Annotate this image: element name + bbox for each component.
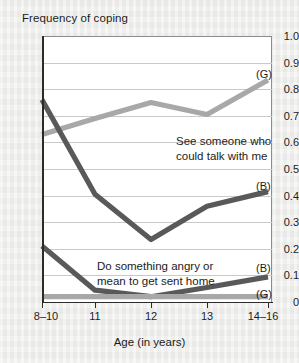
series-label-talk-girls: (G) bbox=[256, 68, 272, 80]
x-axis-tick-mark bbox=[268, 302, 269, 308]
x-axis-tick-label: 14–16 bbox=[248, 310, 279, 322]
y-axis-line bbox=[42, 36, 44, 303]
annotation-angry: Do something angry or mean to get sent h… bbox=[97, 259, 215, 288]
series-line-talk-girls bbox=[42, 80, 268, 134]
annotation-talk-line2: could talk with me bbox=[176, 149, 271, 164]
coping-frequency-line-chart: Frequency of coping 1.0 0.9 0.8 0.7 0.6 … bbox=[0, 0, 299, 363]
series-label-angry-boys: (B) bbox=[256, 262, 271, 274]
series-label-angry-girls: (G) bbox=[256, 288, 272, 300]
x-axis-tick-mark bbox=[151, 302, 152, 308]
series-line-talk-boys bbox=[42, 100, 268, 240]
annotation-angry-line1: Do something angry or bbox=[97, 259, 215, 274]
x-axis-tick-mark bbox=[207, 302, 208, 308]
x-axis-title: Age (in years) bbox=[0, 336, 299, 348]
annotation-talk-line1: See someone who bbox=[176, 134, 271, 149]
x-axis-tick-mark bbox=[42, 302, 43, 308]
x-axis-tick-mark bbox=[95, 302, 96, 308]
annotation-talk: See someone who could talk with me bbox=[176, 134, 271, 163]
x-axis-tick-label: 8–10 bbox=[34, 310, 58, 322]
annotation-angry-line2: mean to get sent home bbox=[97, 274, 215, 289]
x-axis-tick-label: 11 bbox=[89, 310, 100, 322]
chart-title: Frequency of coping bbox=[22, 12, 128, 24]
series-label-talk-boys: (B) bbox=[256, 180, 271, 192]
x-axis-tick-label: 13 bbox=[201, 310, 213, 322]
x-axis-line bbox=[42, 302, 273, 304]
x-axis-tick-label: 12 bbox=[145, 310, 157, 322]
